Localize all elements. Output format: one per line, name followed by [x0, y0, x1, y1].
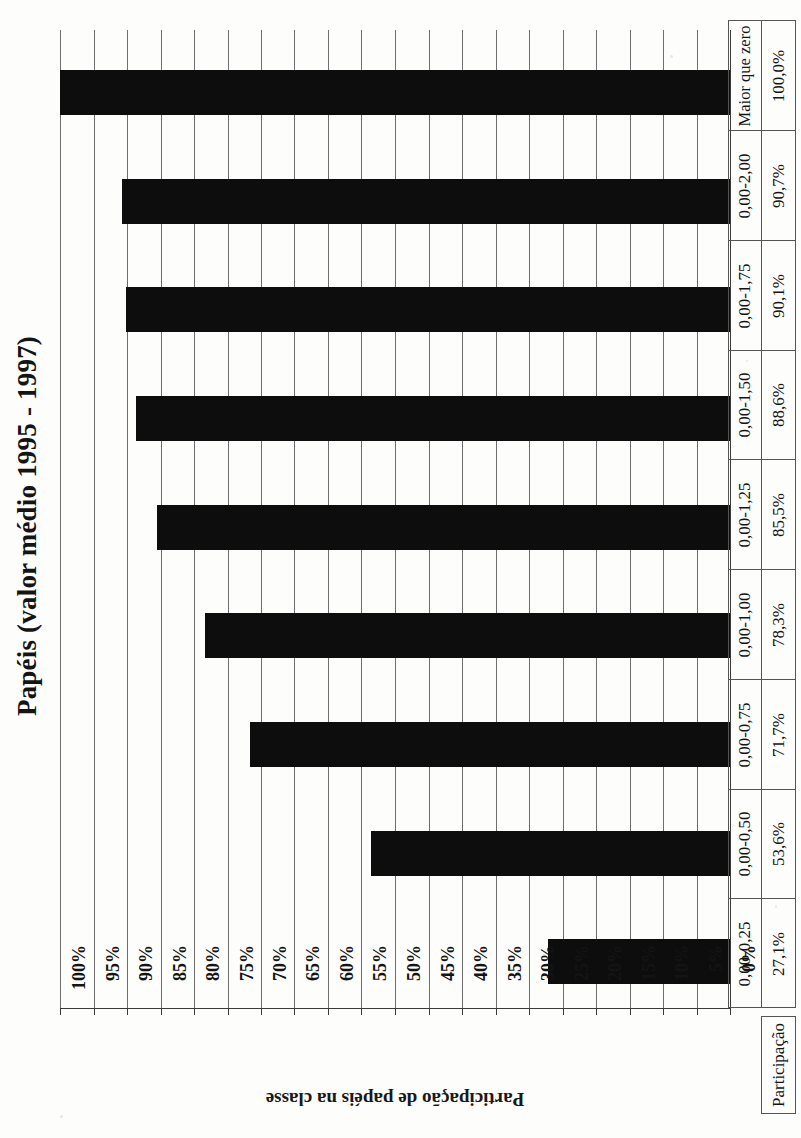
tick-mark: [328, 1008, 329, 1015]
table-cell-text: 0,00-1,25: [735, 482, 755, 547]
bar: [157, 505, 730, 550]
table-cell: Maior que zero: [729, 21, 761, 131]
bar: [122, 179, 730, 224]
table-cell-text: 27,1%: [769, 932, 789, 976]
gridline-95: [94, 30, 95, 1008]
bar: [136, 396, 730, 441]
table-cell: 71,7%: [762, 680, 795, 790]
tick-label: 80%: [203, 945, 221, 1019]
tick-label: 100%: [69, 945, 87, 1019]
tick-label: 95%: [103, 945, 121, 1019]
gridline-90: [127, 30, 128, 1008]
table-cell: 90,7%: [762, 131, 795, 241]
table-cell: 0,00-0,25: [729, 899, 761, 1009]
table-cell-text: 71,7%: [769, 713, 789, 757]
table-cell-text: 78,3%: [769, 603, 789, 647]
table-footer-label: Participação: [769, 1023, 789, 1107]
paper-speck: [300, 1090, 302, 1092]
tick-mark: [161, 1008, 162, 1015]
tick-label: 65%: [303, 945, 321, 1019]
table-cell-text: 53,6%: [769, 822, 789, 866]
tick-label: 25%: [572, 945, 590, 1019]
chart-page: Papéis (valor médio 1995 - 1997) 100%95%…: [0, 0, 801, 1138]
tick-mark: [228, 1008, 229, 1015]
tick-label: 75%: [237, 945, 255, 1019]
tick-label: 55%: [370, 945, 388, 1019]
bar: [250, 722, 730, 767]
bar: [126, 287, 730, 332]
tick-label: 20%: [605, 945, 623, 1019]
tick-mark: [496, 1008, 497, 1015]
table-cell-text: 0,00-0,25: [735, 921, 755, 986]
tick-mark: [529, 1008, 530, 1015]
table-cell-text: 90,1%: [769, 274, 789, 318]
tick-label: 45%: [438, 945, 456, 1019]
paper-speck: [60, 1115, 63, 1118]
table-cell: 0,00-2,00: [729, 131, 761, 241]
tick-label: 50%: [404, 945, 422, 1019]
table-cell: 0,00-0,50: [729, 789, 761, 899]
table-cell-text: 0,00-1,75: [735, 263, 755, 328]
tick-mark: [462, 1008, 463, 1015]
table-cell: 90,1%: [762, 241, 795, 351]
tick-label: 60%: [337, 945, 355, 1019]
table-cell: 85,5%: [762, 460, 795, 570]
tick-mark: [60, 1008, 61, 1015]
table-cell: 0,00-1,25: [729, 460, 761, 570]
table-cell-text: 88,6%: [769, 383, 789, 427]
table-cell-text: 0,00-0,50: [735, 811, 755, 876]
bar: [371, 831, 730, 876]
table-cell: 0,00-1,00: [729, 570, 761, 680]
bar: [60, 70, 730, 115]
tick-mark: [429, 1008, 430, 1015]
table-cell-text: Maior que zero: [735, 25, 755, 126]
tick-mark: [294, 1008, 295, 1015]
table-column-categories: Maior que zero0,00-2,000,00-1,750,00-1,5…: [728, 20, 762, 1008]
paper-speck: [746, 360, 748, 362]
table-cell: 27,1%: [762, 899, 795, 1009]
tick-label: 90%: [136, 945, 154, 1019]
tick-mark: [127, 1008, 128, 1015]
tick-label: 70%: [270, 945, 288, 1019]
paper-speck: [20, 690, 23, 692]
table-cell: 88,6%: [762, 350, 795, 460]
table-cell: 53,6%: [762, 789, 795, 899]
tick-label: 35%: [505, 945, 523, 1019]
gridline-100: [60, 30, 61, 1008]
chart-title: Papéis (valor médio 1995 - 1997): [12, 176, 52, 876]
tick-label: 30%: [538, 945, 556, 1019]
table-column-values: 100,0%90,7%90,1%88,6%85,5%78,3%71,7%53,6…: [761, 20, 796, 1008]
tick-mark: [194, 1008, 195, 1015]
table-cell: 100,0%: [762, 21, 795, 131]
tick-mark: [563, 1008, 564, 1015]
tick-label: 40%: [471, 945, 489, 1019]
tick-mark: [261, 1008, 262, 1015]
table-cell: 0,00-1,50: [729, 350, 761, 460]
table-cell-text: 100,0%: [769, 49, 789, 101]
tick-label: 85%: [170, 945, 188, 1019]
paper-speck: [775, 905, 777, 908]
table-cell: 0,00-0,75: [729, 680, 761, 790]
data-table: Maior que zero0,00-2,000,00-1,750,00-1,5…: [728, 20, 796, 1114]
table-cell-text: 90,7%: [769, 164, 789, 208]
tick-mark: [94, 1008, 95, 1015]
table-cell-text: 0,00-1,00: [735, 592, 755, 657]
paper-speck: [670, 55, 673, 58]
tick-label: 5%: [706, 945, 724, 1019]
table-cell: 0,00-1,75: [729, 241, 761, 351]
tick-mark: [697, 1008, 698, 1015]
table-footer-cell: Participação: [761, 1016, 796, 1114]
table-cell-text: 0,00-2,00: [735, 153, 755, 218]
table-cell-text: 0,00-1,50: [735, 372, 755, 437]
table-cell: 78,3%: [762, 570, 795, 680]
table-cell-text: 0,00-0,75: [735, 702, 755, 767]
plot-area: [60, 30, 730, 1008]
bar: [205, 613, 730, 658]
tick-mark: [663, 1008, 664, 1015]
tick-mark: [361, 1008, 362, 1015]
tick-label: 15%: [639, 945, 657, 1019]
tick-mark: [395, 1008, 396, 1015]
table-cell-text: 85,5%: [769, 493, 789, 537]
tick-label: 10%: [672, 945, 690, 1019]
tick-mark: [596, 1008, 597, 1015]
